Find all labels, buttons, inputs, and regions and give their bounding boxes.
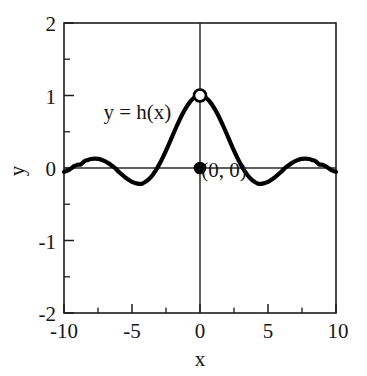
y-tick-label-2: 2 bbox=[46, 12, 57, 36]
plot-canvas: 2 1 0 -1 -2 -10 -5 0 5 10 x y y = h(x) (… bbox=[0, 0, 367, 376]
open-circle-marker bbox=[194, 90, 206, 102]
x-tick-label-5: 5 bbox=[263, 319, 274, 343]
x-tick-label-neg10: -10 bbox=[50, 319, 78, 343]
x-axis-title: x bbox=[195, 347, 206, 371]
y-axis-title: y bbox=[5, 165, 29, 176]
y-tick-label-1: 1 bbox=[46, 85, 57, 109]
function-plot-figure: 2 1 0 -1 -2 -10 -5 0 5 10 x y y = h(x) (… bbox=[0, 0, 367, 376]
y-tick-label-0: 0 bbox=[46, 157, 57, 181]
x-tick-label-10: 10 bbox=[328, 319, 349, 343]
x-tick-label-0: 0 bbox=[195, 319, 206, 343]
origin-point-label: (0, 0) bbox=[201, 158, 247, 182]
x-tick-label-neg5: -5 bbox=[123, 319, 141, 343]
function-label: y = h(x) bbox=[103, 100, 171, 124]
y-tick-label-neg1: -1 bbox=[39, 230, 57, 254]
